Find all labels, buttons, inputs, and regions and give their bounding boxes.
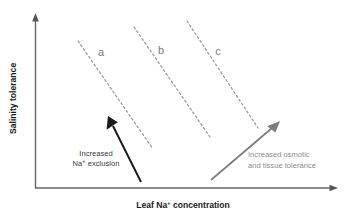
curve-label-b: b — [158, 44, 164, 56]
y-axis-title-group: Salinity tolerance — [8, 63, 18, 134]
na-exclusion-annotation: Increased Na+ exclusion — [73, 149, 120, 168]
curve-label-a: a — [98, 46, 105, 58]
osmotic-tolerance-annotation: Increased osmotic and tissue tolerance — [248, 150, 316, 170]
curve-labels-group: a b c — [98, 44, 221, 58]
x-axis-title: Leaf Na+ concentration — [136, 200, 230, 210]
na-exclusion-line2: Na+ exclusion — [73, 158, 120, 168]
curve-line-b — [134, 27, 210, 137]
y-axis-arrowhead — [32, 13, 39, 22]
na-exclusion-arrowhead — [107, 116, 118, 130]
curves-group — [78, 21, 258, 149]
x-axis-arrowhead — [330, 185, 339, 192]
curve-label-c: c — [215, 45, 221, 57]
figure-container: Salinity tolerance Leaf Na+ concentratio… — [0, 0, 344, 213]
figure-canvas: Salinity tolerance Leaf Na+ concentratio… — [0, 0, 344, 213]
na-exclusion-line1: Increased — [79, 149, 112, 158]
y-axis-title: Salinity tolerance — [8, 63, 18, 134]
x-axis-title-group: Leaf Na+ concentration — [136, 200, 230, 210]
osmotic-tolerance-line2: and tissue tolerance — [248, 161, 316, 170]
curve-line-c — [187, 21, 258, 128]
osmotic-tolerance-line1: Increased osmotic — [248, 150, 310, 159]
na-exclusion-arrow-shaft — [113, 126, 141, 182]
